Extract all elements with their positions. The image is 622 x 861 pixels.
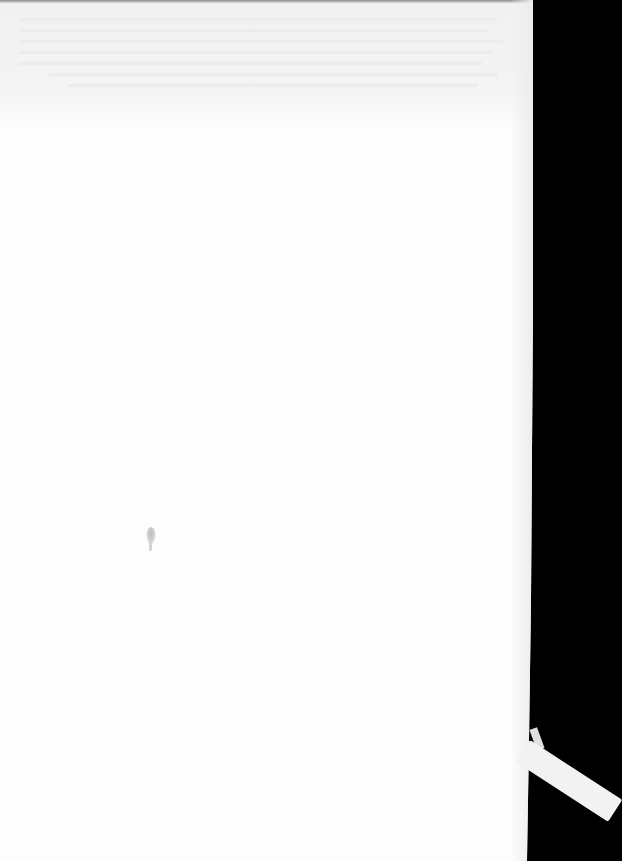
bleed-line: [18, 40, 503, 43]
bleed-line: [18, 18, 498, 21]
bleed-line: [18, 62, 483, 65]
bleed-line: [48, 73, 498, 76]
bleed-through-region: [0, 4, 533, 129]
bookmark-ribbon: [516, 740, 622, 822]
bleed-line: [18, 29, 488, 32]
ink-smudge-tail: [149, 541, 152, 551]
bleed-line: [68, 84, 478, 87]
bleed-line: [18, 51, 493, 54]
bleed-through-lines: [18, 18, 518, 95]
